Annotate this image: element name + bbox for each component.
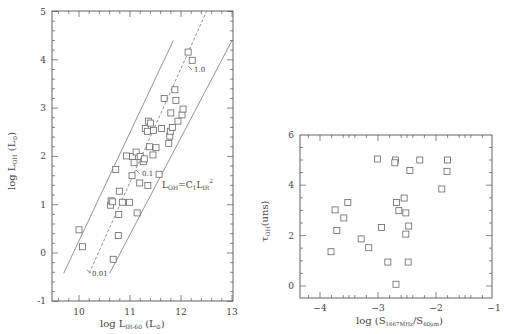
data-point: [405, 259, 411, 265]
left-data-points: [76, 49, 195, 262]
data-point: [345, 200, 351, 206]
data-point: [172, 87, 178, 93]
data-point: [185, 49, 191, 55]
data-point: [134, 210, 140, 216]
data-point: [179, 112, 185, 118]
left-relation-lines: [64, 12, 232, 274]
data-point: [394, 200, 400, 206]
right-y-axis-label: τOH(uns): [259, 200, 271, 242]
left-y-axis-label: log LOH (L⊙): [6, 132, 18, 190]
data-point: [126, 199, 132, 205]
data-point: [76, 227, 82, 233]
data-point: [153, 145, 159, 151]
data-point: [401, 195, 407, 201]
data-point: [80, 244, 86, 250]
data-point: [444, 168, 450, 174]
x-tick-label: −3: [371, 303, 385, 313]
x-tick-label: −1: [487, 303, 500, 313]
data-point: [366, 245, 372, 251]
line-label-0.1: 0.1: [142, 170, 153, 178]
data-point: [131, 160, 137, 166]
line-label-tick-1.0: [188, 66, 192, 70]
y-tick-label: 4: [40, 55, 46, 65]
data-point: [116, 188, 122, 194]
data-point: [403, 231, 409, 237]
data-point: [445, 157, 451, 163]
data-point: [403, 210, 409, 216]
data-point: [341, 215, 347, 221]
data-point: [417, 157, 423, 163]
line-label-tick-0.1: [136, 170, 140, 174]
x-tick-label: 11: [124, 307, 135, 317]
right-panel: −4−3−2−10246 log (S1667MHz/S60μm) τOH(un…: [259, 130, 501, 328]
data-point: [166, 140, 172, 146]
data-point: [189, 57, 195, 63]
left-x-axis-label: log LIR-60 (L⊙): [100, 318, 165, 330]
data-point: [168, 110, 174, 116]
data-point: [123, 153, 129, 159]
y-tick-label: 2: [40, 151, 46, 161]
data-point: [396, 208, 402, 214]
y-tick-label: -1: [37, 296, 46, 306]
data-point: [407, 168, 413, 174]
data-point: [129, 173, 135, 179]
data-point: [180, 106, 186, 112]
data-point: [334, 228, 340, 234]
data-point: [113, 166, 119, 172]
left-tick-labels: 10111213-1012345: [37, 7, 238, 318]
line-label-1.0: 1.0: [194, 66, 205, 74]
data-point: [156, 171, 162, 177]
y-tick-label: 3: [40, 103, 46, 113]
data-point: [150, 127, 156, 133]
data-point: [137, 180, 143, 186]
data-point: [110, 256, 116, 262]
relation-annotation: LOH=C1LIR2: [162, 177, 213, 191]
y-tick-label: 6: [288, 130, 294, 140]
y-tick-label: 4: [288, 180, 294, 190]
y-tick-label: 5: [40, 7, 46, 17]
data-point: [144, 128, 150, 134]
x-tick-label: 12: [175, 307, 186, 317]
data-point: [385, 259, 391, 265]
data-point: [146, 144, 152, 150]
x-tick-label: 13: [226, 307, 238, 317]
line-label-0.01: 0.01: [92, 270, 108, 278]
y-tick-label: 2: [288, 231, 294, 241]
data-point: [161, 95, 167, 101]
y-tick-label: 0: [40, 248, 46, 258]
data-point: [439, 186, 445, 192]
data-point: [145, 182, 151, 188]
data-point: [173, 97, 179, 103]
data-point: [392, 160, 398, 166]
data-point: [119, 199, 125, 205]
data-point: [116, 211, 122, 217]
data-point: [115, 233, 121, 239]
data-point: [141, 156, 147, 162]
data-point: [332, 207, 338, 213]
data-point: [374, 156, 380, 162]
x-tick-label: 10: [73, 307, 85, 317]
data-point: [328, 249, 334, 255]
chart-canvas: 10111213-1012345 1.0 0.1 0.01 LOH=C1LIR2…: [0, 0, 507, 334]
x-tick-label: −2: [429, 303, 442, 313]
right-data-points: [328, 156, 451, 287]
data-point: [147, 120, 153, 126]
x-tick-label: −4: [313, 303, 327, 313]
data-point: [393, 281, 399, 287]
data-point: [110, 199, 116, 205]
data-point: [169, 124, 175, 130]
data-point: [406, 223, 412, 229]
data-point: [358, 236, 364, 242]
data-point: [175, 118, 181, 124]
data-point: [150, 152, 156, 158]
data-point: [378, 225, 384, 231]
right-x-axis-label: log (S1667MHz/S60μm): [356, 315, 443, 328]
figure: 10111213-1012345 1.0 0.1 0.01 LOH=C1LIR2…: [0, 0, 507, 334]
y-tick-label: 0: [288, 281, 294, 291]
left-panel: 10111213-1012345 1.0 0.1 0.01 LOH=C1LIR2…: [6, 7, 238, 331]
data-point: [159, 125, 165, 131]
y-tick-label: 1: [40, 200, 46, 210]
